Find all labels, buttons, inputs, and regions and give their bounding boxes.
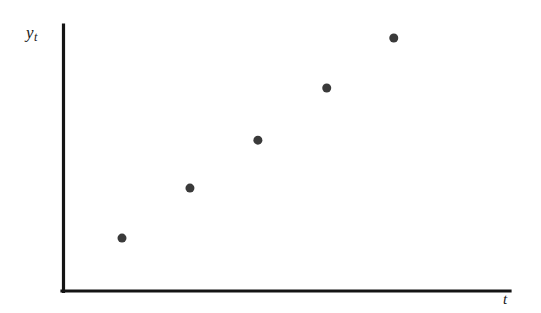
y-axis-label-subscript: t (34, 30, 38, 44)
data-point (118, 234, 127, 243)
data-point (185, 184, 194, 193)
x-axis-label: t (503, 292, 507, 307)
plot-background (0, 0, 541, 313)
plot-canvas (0, 0, 541, 313)
data-point (322, 84, 331, 93)
x-axis-label-base: t (503, 291, 507, 307)
scatter-plot-figure: yt t (0, 0, 541, 313)
data-point (389, 34, 398, 43)
y-axis-label: yt (26, 24, 37, 44)
y-axis-label-base: y (26, 23, 34, 42)
data-point (253, 136, 262, 145)
